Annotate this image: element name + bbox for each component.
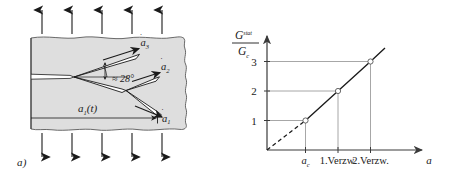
y-axis-title: Gstat Gc bbox=[232, 29, 259, 59]
y-tick-label-3: 3 bbox=[251, 56, 257, 68]
x-tick-label-1verzw: 1.Verzw. bbox=[320, 155, 357, 166]
panel-b-chart: 1 2 3 ac 1.Verzw. 2.Verzw. a Gstat Gc b) bbox=[226, 0, 452, 187]
x-tick-label-ac: ac bbox=[301, 155, 309, 168]
label-a1-of-t: a1(t) bbox=[78, 102, 97, 116]
y-axis-title-numerator: Gstat bbox=[235, 29, 252, 41]
load-arrows-top bbox=[42, 10, 162, 34]
x-tick-label-2verzw: 2.Verzw. bbox=[352, 155, 389, 166]
label-a3-dot: ̇ bbox=[140, 34, 142, 35]
series-static-energy-release-rate bbox=[306, 48, 386, 121]
initial-crack-slit bbox=[31, 74, 74, 79]
load-arrows-bottom bbox=[42, 133, 162, 157]
panel-a-caption: a) bbox=[17, 156, 27, 168]
chart-canvas: 1 2 3 ac 1.Verzw. 2.Verzw. a Gstat Gc bbox=[226, 0, 452, 187]
y-tick-label-1: 1 bbox=[251, 115, 257, 127]
leader-lines-vertical bbox=[306, 62, 371, 151]
marker-1verzw bbox=[335, 88, 340, 93]
y-tick-label-2: 2 bbox=[251, 85, 257, 97]
marker-ac bbox=[303, 118, 308, 123]
x-axis-title: a bbox=[426, 154, 432, 166]
y-axis-title-denominator: Gc bbox=[238, 45, 249, 59]
marker-2verzw bbox=[368, 59, 373, 64]
leader-lines-horizontal bbox=[267, 62, 371, 121]
panel-a-crack-schematic: a3 ̇ a2 ̇ a1 ̇ ≈ 28° a1(t) a) bbox=[0, 0, 226, 187]
label-branch-angle: ≈ 28° bbox=[112, 73, 134, 84]
figure-root: a3 ̇ a2 ̇ a1 ̇ ≈ 28° a1(t) a) bbox=[0, 0, 452, 187]
series-extrapolated-initiation bbox=[267, 121, 306, 151]
panel-a-canvas: a3 ̇ a2 ̇ a1 ̇ ≈ 28° a1(t) bbox=[0, 0, 226, 187]
